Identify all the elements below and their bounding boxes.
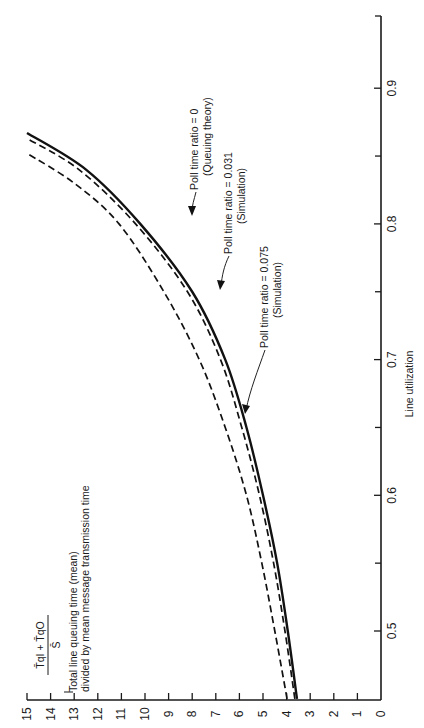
value-tick-label: 5 — [256, 710, 270, 717]
y-axis-label-line1: Total line queuing time (mean) — [67, 551, 79, 692]
value-tick-label: 8 — [185, 710, 199, 717]
annotation-ratio-0-line2: (Queuing theory) — [201, 97, 213, 176]
value-axis: 0123456789101112131415 — [20, 693, 388, 721]
value-tick-label: 10 — [138, 707, 152, 721]
value-tick-label: 1 — [350, 710, 364, 717]
value-tick-label: 15 — [20, 707, 34, 721]
utilization-tick-label: 0.8 — [385, 215, 399, 232]
utilization-tick-label: 0.9 — [385, 80, 399, 97]
utilization-tick-label: 0.7 — [385, 351, 399, 368]
value-tick-label: 6 — [232, 710, 246, 717]
utilization-tick-label: 0.5 — [385, 622, 399, 639]
value-tick-label: 2 — [327, 710, 341, 717]
value-tick-label: 7 — [209, 710, 223, 717]
annotation-ratio-0-arrow-icon — [188, 206, 196, 216]
value-tick-label: 11 — [114, 707, 128, 720]
formula-numerator: T̄qI + T̄qO — [34, 621, 46, 668]
value-tick-label: 13 — [67, 707, 81, 721]
y-axis-formula: T̄qI + T̄qO S̄ — [34, 615, 62, 675]
value-tick-label: 14 — [44, 707, 58, 721]
formula-denominator: S̄ — [50, 641, 62, 648]
annotation-ratio-0075: Poll time ratio = 0.075 (Simulation) — [258, 246, 283, 348]
annotation-ratio-0031: Poll time ratio = 0.031 (Simulation) — [222, 152, 247, 254]
value-tick-label: 9 — [162, 710, 176, 717]
annotation-ratio-0: Poll time ratio = 0 (Queuing theory) — [188, 97, 213, 190]
value-axis-ticks: 0123456789101112131415 — [20, 693, 388, 721]
annotation-ratio-0075-leader — [246, 350, 265, 410]
x-axis-label: Line utilization — [403, 351, 415, 418]
chart: 0123456789101112131415 0.50.60.70.80.9 L… — [0, 0, 424, 728]
annotation-ratio-0031-arrow-icon — [217, 280, 225, 290]
annotation-ratio-0075-line1: Poll time ratio = 0.075 — [258, 246, 270, 348]
annotation-ratio-0031-line1: Poll time ratio = 0.031 — [222, 152, 234, 254]
curve-ratio-0075 — [27, 153, 287, 699]
value-tick-label: 12 — [91, 707, 105, 721]
annotation-ratio-0075-line2: (Simulation) — [271, 262, 283, 318]
annotation-ratio-0031-line2: (Simulation) — [235, 168, 247, 224]
value-tick-label: 4 — [280, 710, 294, 717]
utilization-tick-label: 0.6 — [385, 487, 399, 504]
y-axis-label-line2: divided by mean message transmission tim… — [79, 485, 91, 692]
annotation-ratio-0-line1: Poll time ratio = 0 — [188, 108, 200, 190]
value-tick-label: 3 — [303, 710, 317, 717]
utilization-axis-ticks: 0.50.60.70.80.9 — [374, 80, 399, 640]
y-axis-description: Total line queuing time (mean) divided b… — [67, 485, 91, 692]
utilization-axis: 0.50.60.70.80.9 — [374, 16, 399, 700]
value-tick-label: 0 — [374, 710, 388, 717]
